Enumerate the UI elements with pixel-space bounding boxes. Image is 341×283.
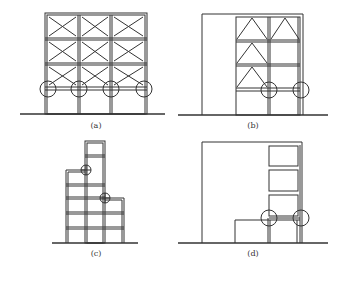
- panel-d: [178, 142, 328, 243]
- panel-c: [52, 141, 138, 243]
- caption-b: (b): [238, 121, 268, 130]
- structural-diagram: [0, 0, 341, 283]
- caption-c: (c): [81, 249, 111, 258]
- x-bracing: [49, 17, 143, 85]
- panel-a: [20, 13, 165, 114]
- joint-circles: [40, 81, 152, 97]
- caption-d: (d): [238, 249, 268, 258]
- caption-a: (a): [81, 121, 111, 130]
- panel-b: [178, 14, 328, 115]
